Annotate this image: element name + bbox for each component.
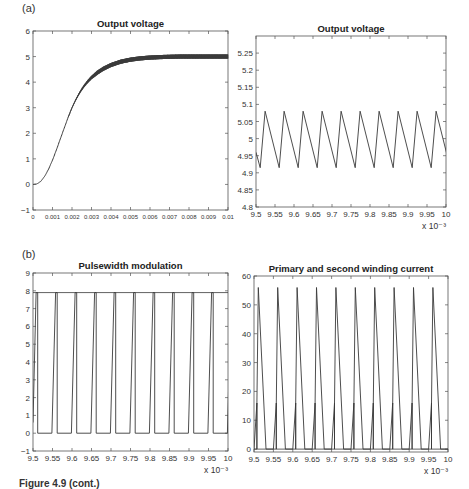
data-line bbox=[33, 57, 228, 185]
y-tick-label: 5.15 bbox=[237, 83, 253, 92]
x-tick-label: 10 bbox=[442, 210, 451, 219]
y-tick-label: 30 bbox=[242, 359, 251, 368]
y-tick-label: 6 bbox=[26, 27, 31, 36]
x-tick-label: 0.003 bbox=[84, 214, 100, 220]
y-tick-label: 5 bbox=[249, 135, 254, 144]
x-tick-label: 9.55 bbox=[267, 210, 283, 219]
y-tick-label: 5.25 bbox=[237, 49, 253, 58]
y-tick-label: 5.2 bbox=[242, 66, 254, 75]
y-tick-label: 5.1 bbox=[242, 100, 254, 109]
x-tick-label: 10 bbox=[224, 454, 233, 463]
x-tick-label: 9.8 bbox=[144, 454, 156, 463]
x-tick-label: 9.65 bbox=[304, 455, 320, 464]
y-tick-label: 40 bbox=[242, 330, 251, 339]
chart-title: Output voltage bbox=[317, 23, 384, 34]
y-tick-label: 1 bbox=[26, 155, 31, 164]
y-tick-label: 7 bbox=[26, 305, 31, 314]
x-tick-label: 0.006 bbox=[142, 214, 158, 220]
chart-pulsewidth-modulation: Pulsewidth modulation9.59.559.69.659.79.… bbox=[21, 260, 233, 475]
x-tick-label: 9.95 bbox=[419, 210, 435, 219]
chart-winding-current: Primary and second winding current9.59.5… bbox=[242, 263, 453, 476]
x-tick-label: 9.7 bbox=[105, 454, 117, 463]
y-tick-label: 60 bbox=[242, 272, 251, 281]
y-tick-label: 3 bbox=[26, 104, 31, 113]
x-tick-label: 0.005 bbox=[123, 214, 139, 220]
y-tick-label: 5 bbox=[26, 53, 31, 62]
x-tick-label: 9.95 bbox=[201, 454, 217, 463]
x-tick-label: 9.85 bbox=[382, 455, 398, 464]
x-tick-label: 9.7 bbox=[326, 455, 338, 464]
y-tick-label: 5.05 bbox=[237, 118, 253, 127]
y-tick-label: 0 bbox=[26, 180, 31, 189]
y-tick-label: 10 bbox=[242, 416, 251, 425]
data-line bbox=[254, 288, 448, 450]
x-tick-label: 9.65 bbox=[305, 210, 321, 219]
y-tick-label: 50 bbox=[242, 301, 251, 310]
x-axis-exponent: x 10⁻³ bbox=[422, 221, 446, 231]
y-tick-label: 4.85 bbox=[237, 186, 253, 195]
x-tick-label: 9.65 bbox=[84, 454, 100, 463]
x-tick-label: 9.75 bbox=[123, 454, 139, 463]
y-tick-label: 4.9 bbox=[242, 169, 254, 178]
y-tick-label: 4 bbox=[26, 358, 31, 367]
chart-title: Pulsewidth modulation bbox=[79, 260, 183, 271]
x-tick-label: 0.004 bbox=[103, 214, 119, 220]
y-tick-label: 4 bbox=[26, 78, 31, 87]
x-tick-label: 9.7 bbox=[326, 210, 338, 219]
y-tick-label: 8 bbox=[26, 287, 31, 296]
figure-caption: Figure 4.9 (cont.) bbox=[19, 478, 100, 489]
chart-output-voltage-ripple: Output voltage9.59.559.69.659.79.759.89.… bbox=[237, 23, 455, 231]
y-tick-label: 2 bbox=[26, 394, 31, 403]
x-tick-label: 9.8 bbox=[364, 210, 376, 219]
y-tick-label: 0 bbox=[247, 445, 252, 454]
x-tick-label: 0 bbox=[31, 214, 35, 220]
chart-title: Output voltage bbox=[97, 18, 164, 29]
x-tick-label: 9.75 bbox=[343, 210, 359, 219]
x-tick-label: 9.6 bbox=[66, 454, 78, 463]
x-tick-label: 9.9 bbox=[404, 455, 416, 464]
x-axis-exponent: x 10⁻³ bbox=[204, 465, 228, 475]
y-tick-label: 20 bbox=[242, 387, 251, 396]
x-tick-label: 9.9 bbox=[183, 454, 195, 463]
y-tick-label: 4.8 bbox=[242, 203, 254, 212]
axes-box bbox=[254, 276, 448, 452]
y-tick-label: 6 bbox=[26, 322, 31, 331]
y-tick-label: 4.95 bbox=[237, 152, 253, 161]
x-tick-label: 0.002 bbox=[64, 214, 80, 220]
x-tick-label: 9.55 bbox=[45, 454, 61, 463]
x-tick-label: 9.6 bbox=[287, 455, 299, 464]
x-tick-label: 0.001 bbox=[45, 214, 61, 220]
axes-box bbox=[256, 36, 446, 207]
x-tick-label: 9.8 bbox=[365, 455, 377, 464]
y-tick-label: 1 bbox=[26, 411, 31, 420]
chart-output-voltage-transient: Output voltage00.0010.0020.0030.0040.005… bbox=[21, 18, 235, 220]
y-tick-label: 2 bbox=[26, 129, 31, 138]
x-tick-label: 0.007 bbox=[162, 214, 178, 220]
x-axis-exponent: x 10⁻³ bbox=[424, 466, 448, 476]
data-line bbox=[256, 111, 455, 168]
x-tick-label: 9.55 bbox=[266, 455, 282, 464]
y-tick-label: 5 bbox=[26, 340, 31, 349]
x-tick-label: 0.01 bbox=[222, 214, 234, 220]
y-tick-label: −1 bbox=[21, 447, 31, 456]
x-tick-label: 9.85 bbox=[162, 454, 178, 463]
y-tick-label: −1 bbox=[21, 206, 31, 215]
y-tick-label: 9 bbox=[26, 269, 31, 278]
x-tick-label: 9.5 bbox=[248, 455, 260, 464]
x-tick-label: 9.95 bbox=[421, 455, 437, 464]
x-tick-label: 9.75 bbox=[343, 455, 359, 464]
x-tick-label: 9.85 bbox=[381, 210, 397, 219]
x-tick-label: 0.009 bbox=[201, 214, 217, 220]
x-tick-label: 9.9 bbox=[402, 210, 414, 219]
data-line bbox=[33, 293, 231, 434]
ripple-band bbox=[68, 55, 228, 118]
y-tick-label: 0 bbox=[26, 429, 31, 438]
y-tick-label: 3 bbox=[26, 376, 31, 385]
x-tick-label: 10 bbox=[444, 455, 453, 464]
x-tick-label: 0.008 bbox=[181, 214, 197, 220]
chart-title: Primary and second winding current bbox=[269, 263, 435, 274]
x-tick-label: 9.6 bbox=[288, 210, 300, 219]
